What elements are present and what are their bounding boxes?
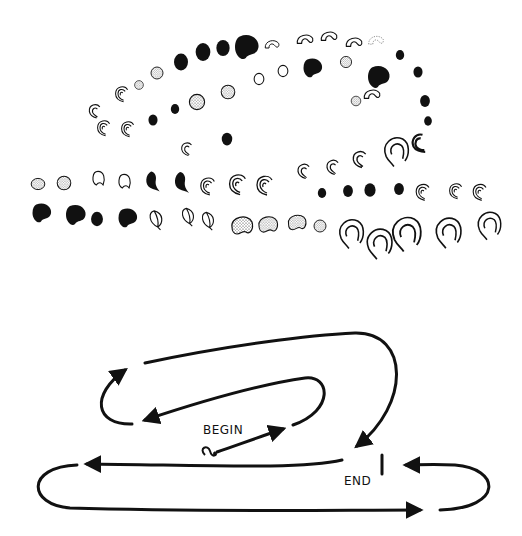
- embryo-glyph-filled: [318, 188, 326, 198]
- embryo-glyph-crescent: [265, 41, 279, 48]
- embryo-glyph-curl: [182, 143, 192, 156]
- embryo-glyph-outline: [254, 73, 264, 84]
- embryo-glyph-double-curl: [116, 87, 128, 102]
- embryo-glyph-crescent: [297, 35, 313, 43]
- embryo-glyph-filled: [420, 95, 430, 107]
- embryo-glyph-crescent: [321, 32, 337, 40]
- embryo-glyph-filled: [343, 185, 353, 197]
- embryo-glyph-double-curl: [201, 178, 215, 195]
- embryo-glyph-double-curl: [122, 122, 134, 137]
- embryo-glyph-filled: [394, 183, 404, 195]
- embryo-glyph-large-curl: [436, 218, 461, 248]
- embryo-glyph-filled: [424, 116, 432, 125]
- embryo-glyph-teardrop-leaf: [202, 212, 213, 230]
- embryo-glyph-crescent-dotted: [369, 36, 384, 44]
- embryo-glyph-double-curl: [257, 176, 272, 195]
- path-segment-outer-arc: [145, 333, 397, 446]
- embryo-glyph-filled-comma: [146, 172, 159, 192]
- embryo-glyph-bean-filled: [33, 203, 52, 222]
- embryo-glyph-bean-filled: [119, 208, 138, 227]
- embryo-glyph-filled: [413, 66, 422, 77]
- embryo-glyph-large-curl: [340, 220, 364, 249]
- embryo-glyph-curl: [89, 105, 99, 118]
- embryo-glyph-teardrop-leaf: [182, 208, 193, 226]
- embryo-glyph-crescent: [364, 90, 380, 98]
- embryo-glyph-stippled: [340, 56, 351, 67]
- embryo-glyph-filled-comma: [175, 172, 189, 193]
- embryo-glyph-large-curl: [393, 218, 421, 252]
- path-diagram-panel: [38, 333, 489, 511]
- embryo-glyph-filled: [91, 212, 103, 226]
- embryo-glyph-double-curl: [98, 121, 110, 136]
- embryo-glyph-filled: [216, 40, 229, 56]
- embryo-glyph-curl: [327, 160, 338, 174]
- embryo-glyph-large-curl: [478, 212, 500, 239]
- embryo-glyph-stippled: [151, 67, 163, 79]
- embryo-glyph-stippled: [189, 94, 204, 109]
- begin-label: BEGIN: [203, 423, 243, 437]
- embryo-glyph-stippled: [314, 220, 326, 232]
- path-segment-inner-loop: [145, 378, 324, 425]
- embryo-glyph-bean-filled: [368, 66, 390, 88]
- embryo-glyph-large-curl: [385, 138, 409, 167]
- embryo-glyph-crescent: [346, 38, 362, 46]
- embryo-glyph-filled: [222, 133, 233, 146]
- embryo-glyph-bean-stippled: [288, 215, 306, 229]
- embryo-glyph-filled: [196, 43, 211, 61]
- embryo-glyph-teardrop: [119, 174, 130, 188]
- path-segment-left-bend: [101, 370, 132, 424]
- embryo-glyph-filled: [396, 50, 404, 60]
- embryo-glyph-bean-filled: [304, 58, 323, 77]
- embryo-glyph-bean-filled: [235, 35, 259, 59]
- embryo-glyph-filled: [174, 54, 188, 71]
- embryo-glyph-double-curl: [450, 184, 462, 199]
- path-segment-right-loop: [406, 465, 489, 510]
- path-segment-left-return: [87, 460, 342, 466]
- embryo-glyph-large-curl: [367, 229, 392, 259]
- embryo-glyph-bean-stippled: [259, 217, 278, 232]
- embryo-glyph-bean-stippled: [232, 217, 253, 234]
- embryo-glyph-stippled: [221, 85, 235, 99]
- embryo-glyph-double-curl: [230, 175, 246, 195]
- embryo-glyph-bean-filled: [66, 205, 86, 225]
- embryo-sequence-panel: [31, 32, 501, 259]
- embryo-glyph-curl: [298, 164, 309, 178]
- embryo-glyph-stippled: [135, 81, 144, 90]
- embryo-glyph-stippled: [57, 176, 71, 190]
- embryo-glyph-filled: [148, 114, 157, 125]
- embryo-glyph-teardrop: [93, 171, 104, 185]
- embryo-glyph-outline: [278, 65, 288, 76]
- embryo-glyph-double-curl: [473, 184, 486, 200]
- embryo-glyph-stippled-oval: [31, 178, 45, 189]
- embryo-glyph-stippled: [351, 96, 361, 106]
- embryo-glyph-filled: [364, 183, 375, 197]
- embryo-glyph-filled: [171, 104, 179, 114]
- embryo-glyph-double-curl: [416, 184, 429, 200]
- start-marker: [203, 447, 217, 456]
- embryo-glyph-teardrop-leaf: [150, 211, 162, 230]
- figure-canvas: BEGIN END: [0, 0, 522, 536]
- embryo-glyph-curl: [353, 152, 365, 168]
- embryo-glyph-curl-dark: [413, 135, 425, 152]
- end-label: END: [344, 474, 371, 488]
